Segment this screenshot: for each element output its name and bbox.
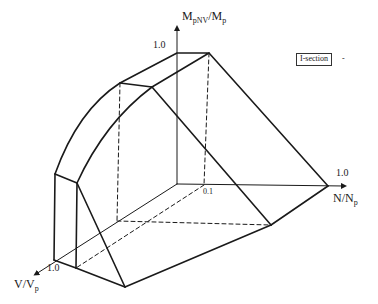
legend-box: I-section: [296, 53, 332, 66]
depth-axis-label: V/Vp: [14, 278, 39, 290]
horizontal-tick: 1.0: [336, 168, 349, 178]
vertical-tick: 1.0: [153, 40, 166, 50]
legend-mark: -: [342, 54, 345, 63]
inner-curve: [77, 87, 152, 183]
v-sub1: pNV: [193, 16, 209, 25]
d-sub: p: [35, 284, 39, 293]
top-face: [120, 53, 209, 87]
h-main: N/N: [333, 191, 354, 205]
h-sub: p: [354, 198, 358, 207]
v-main: M: [182, 9, 193, 23]
v-sub2: p: [222, 16, 226, 25]
origin-tick: 0.1: [203, 188, 213, 196]
v-slash: /M: [208, 9, 222, 23]
horizontal-axis-label: N/Np: [333, 192, 358, 204]
depth-tick: 1.0: [47, 263, 60, 273]
d-main: V/V: [14, 277, 35, 291]
vertical-axis-label: MpNV/Mp: [182, 10, 226, 22]
interaction-diagram: [0, 0, 378, 304]
